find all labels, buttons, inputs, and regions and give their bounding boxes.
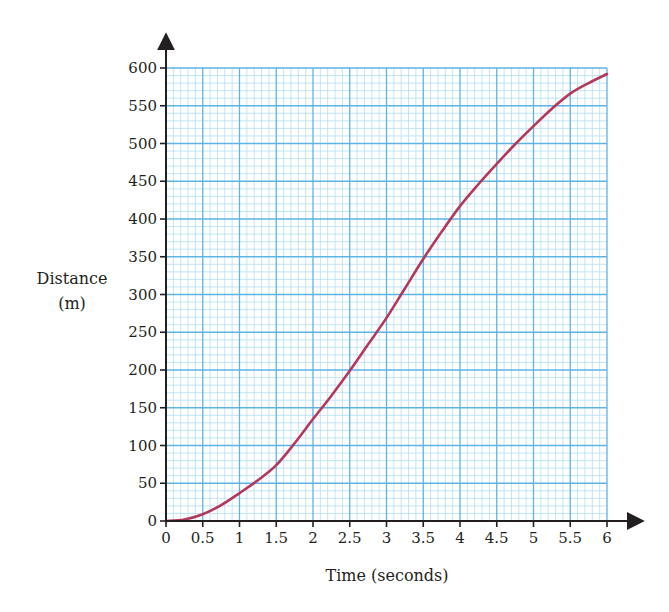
y-tick-label: 0 — [147, 512, 157, 530]
y-tick-label: 400 — [128, 210, 157, 228]
y-tick-label: 450 — [128, 172, 157, 190]
y-tick-label: 500 — [128, 135, 157, 153]
y-ticks: 050100150200250300350400450500550600 — [128, 59, 166, 530]
y-tick-label: 550 — [128, 97, 157, 115]
x-tick-label: 3 — [382, 529, 392, 547]
x-tick-label: 6 — [602, 529, 612, 547]
x-tick-label: 1 — [235, 529, 245, 547]
x-tick-label: 2 — [308, 529, 318, 547]
y-axis-title-line2: (m) — [58, 294, 86, 313]
y-axis-title-line1: Distance — [37, 269, 108, 288]
x-tick-label: 5 — [529, 529, 539, 547]
y-tick-label: 300 — [128, 286, 157, 304]
x-tick-label: 0 — [161, 529, 171, 547]
x-tick-label: 4.5 — [485, 529, 509, 547]
distance-time-chart: 00.511.522.533.544.555.56 05010015020025… — [0, 0, 669, 612]
y-tick-label: 600 — [128, 59, 157, 77]
y-tick-label: 100 — [128, 437, 157, 455]
y-tick-label: 250 — [128, 323, 157, 341]
x-tick-label: 3.5 — [411, 529, 435, 547]
x-tick-label: 5.5 — [558, 529, 582, 547]
x-tick-label: 4 — [455, 529, 465, 547]
y-tick-label: 50 — [138, 474, 157, 492]
x-tick-label: 0.5 — [191, 529, 215, 547]
y-tick-label: 200 — [128, 361, 157, 379]
x-tick-label: 2.5 — [338, 529, 362, 547]
axes — [166, 34, 643, 521]
x-ticks: 00.511.522.533.544.555.56 — [161, 521, 612, 547]
x-tick-label: 1.5 — [264, 529, 288, 547]
x-axis-title: Time (seconds) — [325, 566, 448, 585]
y-tick-label: 150 — [128, 399, 157, 417]
y-tick-label: 350 — [128, 248, 157, 266]
